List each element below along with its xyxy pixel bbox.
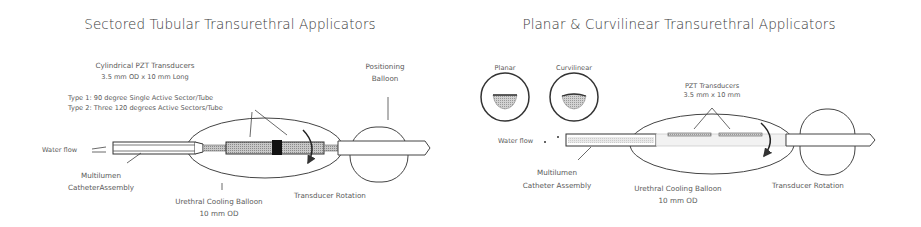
right-title: Planar & Curvilinear Transurethral Appli… [522, 16, 835, 32]
rotation-label: Transducer Rotation [293, 191, 366, 200]
catheter-label-line2: CatheterAssembly [68, 183, 135, 192]
rotation-label: Transducer Rotation [771, 181, 844, 190]
positioning-balloon-line1: Positioning [365, 62, 404, 71]
cooling-balloon-line2: 10 mm OD [659, 196, 698, 205]
applicator-tip [338, 141, 430, 155]
cooling-balloon-line2: 10 mm OD [200, 209, 239, 218]
type1-label: Type 1: 90 degree Single Active Sector/T… [67, 94, 213, 102]
sectored-tubular-panel: Sectored Tubular Transurethral Applicato… [0, 0, 460, 227]
applicator-tip [786, 134, 875, 146]
pzt-transducer-2 [719, 133, 762, 136]
left-title: Sectored Tubular Transurethral Applicato… [84, 16, 375, 32]
water-flow-label: Water flow [498, 137, 534, 145]
planar-curvilinear-panel: Planar & Curvilinear Transurethral Appli… [460, 0, 921, 227]
transducer-label-line2: 3.5 mm OD x 10 mm Long [101, 73, 188, 81]
planar-label: Planar [495, 64, 516, 72]
catheter-label-line1: Multilumen [537, 168, 577, 177]
catheter-tube [113, 142, 195, 154]
cooling-balloon-line1: Urethral Cooling Balloon [634, 184, 721, 193]
type2-label: Type 2: Three 120 degrees Active Sectors… [67, 104, 223, 112]
transducer-label-line1: Cylindrical PZT Transducers [95, 61, 194, 70]
pzt-transducer-1 [668, 133, 711, 136]
planar-curvilinear-diagram: Planar & Curvilinear Transurethral Appli… [460, 0, 921, 227]
catheter-label-line1: Multilumen [81, 171, 121, 180]
pzt-label-line2: 3.5 mm x 10 mm [684, 91, 741, 99]
catheter-label-line2: Catheter Assembly [523, 181, 592, 190]
pzt-label-line1: PZT Transducers [685, 82, 740, 90]
positioning-balloon-line2: Balloon [372, 74, 399, 83]
cooling-balloon-line1: Urethral Cooling Balloon [175, 197, 262, 206]
sectored-tubular-diagram: Sectored Tubular Transurethral Applicato… [0, 0, 460, 227]
curvilinear-label: Curvilinear [556, 64, 592, 72]
active-sector [272, 140, 282, 155]
water-flow-label: Water flow [42, 146, 78, 154]
